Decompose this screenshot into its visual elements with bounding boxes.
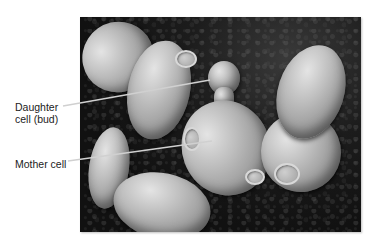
sem-micrograph xyxy=(80,17,361,232)
daughter-label-line2: cell (bud) xyxy=(15,113,58,125)
mother-cell-label: Mother cell xyxy=(15,158,66,170)
bud-scar xyxy=(175,50,197,68)
daughter-cell-label: Daughter cell (bud) xyxy=(15,101,58,125)
mother-label-line1: Mother cell xyxy=(15,158,66,170)
bud-scar xyxy=(274,163,300,185)
bud-scar xyxy=(245,169,265,185)
bud-scar xyxy=(183,127,201,151)
daughter-label-line1: Daughter xyxy=(15,101,58,113)
